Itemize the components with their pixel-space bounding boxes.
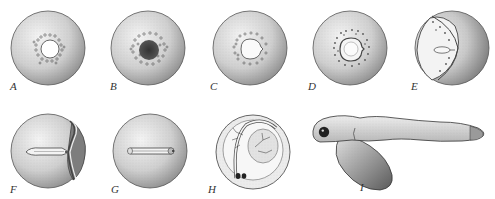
label-h: H bbox=[208, 184, 216, 195]
label-f: F bbox=[10, 184, 17, 195]
label-e: E bbox=[411, 81, 418, 92]
label-c: C bbox=[210, 81, 217, 92]
label-i: I bbox=[360, 182, 364, 193]
egg-e bbox=[415, 11, 489, 85]
egg-d bbox=[313, 11, 387, 85]
label-a: A bbox=[10, 81, 17, 92]
larva-i bbox=[313, 116, 484, 190]
figure-drawing bbox=[0, 0, 495, 199]
egg-a bbox=[11, 11, 85, 85]
label-g: G bbox=[111, 184, 119, 195]
label-d: D bbox=[308, 81, 316, 92]
egg-h bbox=[216, 115, 290, 189]
egg-b bbox=[111, 11, 185, 85]
egg-g bbox=[113, 114, 187, 188]
embryo-development-figure: A B C D E F G H I bbox=[0, 0, 495, 199]
egg-c bbox=[213, 11, 287, 85]
label-b: B bbox=[110, 81, 117, 92]
egg-f bbox=[11, 114, 85, 188]
